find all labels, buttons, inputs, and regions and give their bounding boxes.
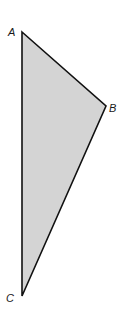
vertex-label-c: C	[6, 292, 14, 304]
vertex-label-b: B	[109, 102, 116, 114]
triangle-diagram: A B C	[0, 0, 126, 317]
vertex-label-a: A	[7, 26, 15, 38]
triangle-abc	[22, 32, 106, 296]
